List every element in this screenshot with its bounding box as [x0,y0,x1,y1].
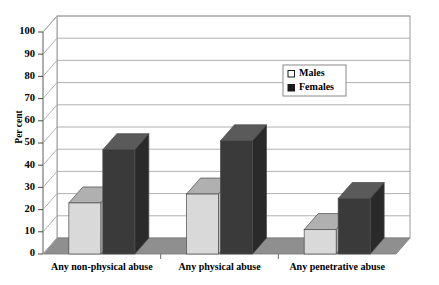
legend-entry-label: Males [299,67,325,78]
y-tick-label: 60 [25,114,36,125]
bar-chart: 0102030405060708090100 Per cent Any non-… [0,0,439,285]
y-tick-label: 100 [19,25,35,36]
bar-front-face [69,203,101,254]
legend-entry-label: Females [299,81,334,92]
chart-canvas: 0102030405060708090100 Per cent Any non-… [0,0,439,285]
open-square-icon [288,71,295,78]
y-tick-label: 30 [25,181,36,192]
y-tick-label: 80 [25,70,36,81]
category-label: Any non-physical abuse [51,261,153,272]
bar-3d [221,125,267,254]
category-label: Any penetrative abuse [289,261,385,272]
category-label: Any physical abuse [178,261,261,272]
bar-side-face [253,125,267,254]
filled-square-icon [288,85,295,92]
y-tick-label: 50 [25,136,36,147]
bar-3d [103,134,149,254]
y-axis-title: Per cent [14,110,24,144]
bar-front-face [221,141,253,254]
y-tick-label: 90 [25,48,36,59]
y-tick-label: 10 [25,225,36,236]
y-tick-label: 0 [30,247,35,258]
bar-front-face [103,150,135,254]
y-tick-label: 70 [25,92,36,103]
bar-front-face [338,199,370,255]
y-tick-label: 20 [25,203,36,214]
category-label-group: Any non-physical abuseAny physical abuse… [51,261,386,272]
y-tick-label: 40 [25,159,36,170]
chart-legend[interactable]: MalesFemales [283,65,346,96]
bar-3d [338,183,384,255]
bar-side-face [135,134,149,254]
bar-front-face [187,194,219,254]
bar-front-face [304,230,336,254]
